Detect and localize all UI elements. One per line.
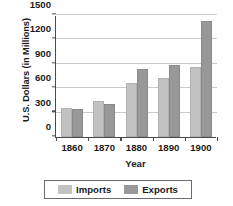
bar-imports-1870 (93, 101, 104, 137)
bar-group (126, 16, 148, 137)
x-tick-mark (120, 137, 121, 141)
bar-chart-figure: U.S. Dollars (in Millions) 0300600900120… (0, 0, 233, 206)
y-tick-mark (52, 13, 56, 14)
x-tick-label: 1880 (126, 142, 147, 153)
bar-imports-1860 (61, 108, 72, 137)
plot-area: 030060090012001500 18601870188018901900 (55, 16, 216, 138)
bar-exports-1860 (72, 109, 83, 137)
gridline (56, 14, 217, 15)
y-tick-label: 900 (35, 47, 51, 58)
legend-item-imports: Imports (58, 184, 111, 195)
y-tick-label: 1500 (30, 0, 51, 10)
bar-exports-1870 (104, 104, 115, 137)
bars-layer (56, 16, 216, 137)
x-tick-mark (153, 137, 154, 141)
bar-imports-1890 (158, 78, 169, 137)
bar-exports-1890 (169, 65, 180, 137)
bar-imports-1880 (126, 83, 137, 137)
x-tick-mark (185, 137, 186, 141)
bar-group (158, 16, 180, 137)
legend-item-exports: Exports (124, 184, 178, 195)
x-tick-label: 1900 (190, 142, 211, 153)
bar-exports-1880 (137, 69, 148, 137)
legend-label: Imports (76, 184, 111, 195)
chart-legend: ImportsExports (44, 180, 192, 199)
x-tick-label: 1870 (94, 142, 115, 153)
x-tick-mark (56, 137, 57, 141)
legend-swatch-icon (58, 185, 72, 194)
x-tick-mark (88, 137, 89, 141)
x-tick-mark (217, 137, 218, 141)
y-tick-label: 1200 (30, 23, 51, 34)
bar-exports-1900 (201, 21, 212, 137)
legend-swatch-icon (124, 185, 138, 194)
y-tick-label: 300 (35, 96, 51, 107)
y-tick-label: 0 (46, 121, 51, 132)
legend-label: Exports (142, 184, 178, 195)
bar-group (61, 16, 83, 137)
x-axis-title: Year (55, 158, 216, 169)
x-tick-label: 1890 (158, 142, 179, 153)
bar-group (190, 16, 212, 137)
bar-imports-1900 (190, 67, 201, 137)
bar-group (93, 16, 115, 137)
x-tick-label: 1860 (61, 142, 82, 153)
y-tick-label: 600 (35, 72, 51, 83)
